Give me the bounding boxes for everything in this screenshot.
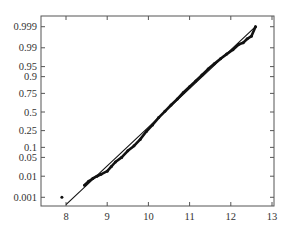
x-tick-label: 11 <box>185 211 195 222</box>
data-point <box>91 177 94 180</box>
data-point <box>106 170 109 173</box>
data-point <box>120 156 123 159</box>
data-point <box>225 53 228 56</box>
y-tick-label: 0.9 <box>24 71 37 82</box>
data-point <box>126 149 129 152</box>
data-point <box>194 79 197 82</box>
y-tick-label: 0.25 <box>19 125 37 136</box>
y-tick-label: 0.99 <box>19 42 37 53</box>
x-axis: 8910111213 <box>63 16 277 222</box>
data-point <box>246 37 249 40</box>
data-point <box>110 165 113 168</box>
data-point <box>238 43 241 46</box>
data-point <box>60 196 63 199</box>
data-point <box>170 104 173 107</box>
data-point <box>207 68 210 71</box>
data-point <box>242 41 245 44</box>
data-point <box>213 62 216 65</box>
data-point <box>87 180 90 183</box>
y-tick-label: 0.05 <box>19 152 37 163</box>
data-point <box>114 161 117 164</box>
data-point <box>188 85 191 88</box>
data-point <box>95 175 98 178</box>
data-point <box>176 98 179 101</box>
x-tick-label: 9 <box>105 211 110 222</box>
data-point <box>100 173 103 176</box>
x-tick-label: 13 <box>267 211 278 222</box>
data-point <box>254 25 257 28</box>
y-tick-label: 0.95 <box>19 61 37 72</box>
x-tick-label: 10 <box>143 211 154 222</box>
data-point <box>219 57 222 60</box>
x-tick-label: 12 <box>226 211 237 222</box>
y-tick-label: 0.001 <box>13 192 37 203</box>
normal-probability-plot: 8910111213 0.0010.010.050.10.250.50.750.… <box>0 0 291 226</box>
data-point <box>139 138 142 141</box>
data-point <box>200 73 203 76</box>
y-tick-label: 0.01 <box>19 171 37 182</box>
data-point <box>132 144 135 147</box>
data-point <box>250 35 253 38</box>
data-point <box>145 130 148 133</box>
y-tick-label: 0.1 <box>24 142 37 153</box>
data-point <box>157 116 160 119</box>
y-tick-label: 0.999 <box>13 21 37 32</box>
data-point <box>151 123 154 126</box>
data-point <box>163 110 166 113</box>
x-tick-label: 8 <box>63 211 68 222</box>
data-point <box>231 48 234 51</box>
data-point <box>182 91 185 94</box>
data-points <box>60 25 257 199</box>
data-point <box>83 184 86 187</box>
y-tick-label: 0.5 <box>24 107 37 118</box>
y-tick-label: 0.75 <box>19 88 37 99</box>
